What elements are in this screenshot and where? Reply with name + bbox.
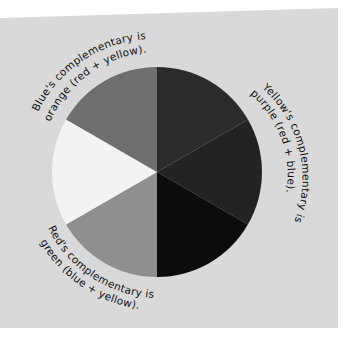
- color-wheel: [52, 67, 262, 277]
- diagram-canvas: Blue's complementary is orange (red + ye…: [0, 0, 343, 337]
- color-wheel-diagram: Blue's complementary is orange (red + ye…: [0, 0, 343, 337]
